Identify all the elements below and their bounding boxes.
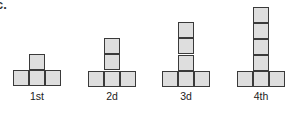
base-cell-right [120,71,136,87]
base-cell-center [253,71,269,87]
stack-cell [253,55,269,71]
stack-cell [253,39,269,55]
stack-cell [178,38,194,54]
stack-cell [253,23,269,39]
base-cell-right [269,71,285,87]
stack-cell [178,55,194,71]
stack-cell [178,22,194,38]
base-cell-center [104,71,120,87]
base-cell-left [88,71,104,87]
stack-cell [253,7,269,23]
base-cell-right [194,71,210,87]
part-label: c. [0,0,7,12]
base-cell-right [45,70,61,86]
base-cell-center [29,70,45,86]
base-cell-left [237,71,253,87]
stack-cell [29,54,45,70]
base-cell-left [162,71,178,87]
figure-label: 1st [17,90,57,102]
base-cell-center [178,71,194,87]
stack-cell [104,54,120,70]
base-cell-left [13,70,29,86]
figure-label: 4th [241,90,281,102]
stack-cell [104,38,120,54]
figure-label: 3d [166,90,206,102]
figure-label: 2d [92,90,132,102]
